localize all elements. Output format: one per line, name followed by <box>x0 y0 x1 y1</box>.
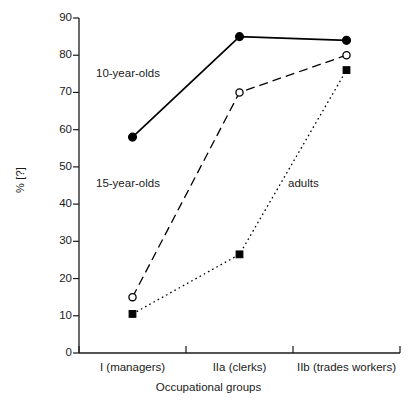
line-chart: % [?] 9080706050403020100 I (managers)II… <box>0 0 417 412</box>
series-label-adults: adults <box>288 178 319 190</box>
series-line <box>133 37 347 138</box>
series-10-year-olds <box>129 33 351 141</box>
y-tick-label: 90 <box>34 12 72 24</box>
data-point-marker <box>343 67 350 74</box>
y-tick-label: 20 <box>34 273 72 285</box>
series-adults <box>129 67 350 318</box>
data-point-marker <box>343 52 350 59</box>
x-tick-label: IIa (clerks) <box>178 362 301 374</box>
y-tick-label: 10 <box>34 310 72 322</box>
x-tick-label: I (managers) <box>71 362 194 374</box>
data-point-marker <box>236 33 244 41</box>
x-tick-label: IIb (trades workers) <box>285 362 408 374</box>
y-tick-label: 70 <box>34 86 72 98</box>
data-point-marker <box>129 133 137 141</box>
x-axis-title: Occupational groups <box>0 381 417 393</box>
data-point-marker <box>129 294 136 301</box>
data-point-marker <box>236 89 243 96</box>
x-axis-ticks <box>79 346 400 353</box>
data-point-marker <box>236 251 243 258</box>
y-tick-label: 0 <box>34 347 72 359</box>
y-tick-label: 40 <box>34 198 72 210</box>
y-tick-label: 60 <box>34 124 72 136</box>
series-label-10-year-olds: 10-year-olds <box>96 68 160 80</box>
y-tick-label: 80 <box>34 49 72 61</box>
data-point-marker <box>343 36 351 44</box>
y-axis-ticks <box>73 18 79 353</box>
series-label-15-year-olds: 15-year-olds <box>96 178 160 190</box>
y-tick-label: 50 <box>34 161 72 173</box>
data-point-marker <box>129 311 136 318</box>
y-tick-label: 30 <box>34 235 72 247</box>
series-layer <box>129 33 351 318</box>
